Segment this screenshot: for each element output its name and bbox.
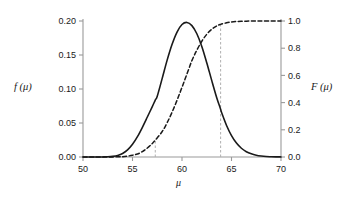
cdf-curve bbox=[83, 21, 281, 157]
x-axis-tick-label: 70 bbox=[276, 164, 286, 174]
chart-plot-area: 50556065700.000.050.100.150.200.00.20.40… bbox=[0, 0, 359, 200]
x-axis-tick-label: 55 bbox=[127, 164, 137, 174]
x-axis-tick-label: 60 bbox=[177, 164, 187, 174]
y-axis-label-right: F (μ) bbox=[311, 81, 332, 92]
y-axis-tick-label-left: 0.10 bbox=[58, 84, 76, 94]
x-axis-tick-label: 65 bbox=[226, 164, 236, 174]
y-axis-tick-label-right: 1.0 bbox=[288, 16, 301, 26]
y-axis-tick-label-left: 0.00 bbox=[58, 152, 76, 162]
y-axis-tick-label-right: 0.4 bbox=[288, 98, 301, 108]
y-axis-tick-label-right: 0.0 bbox=[288, 152, 301, 162]
x-axis-tick-label: 50 bbox=[78, 164, 88, 174]
y-axis-tick-label-right: 0.2 bbox=[288, 125, 301, 135]
y-axis-tick-label-left: 0.15 bbox=[58, 50, 76, 60]
y-axis-tick-label-right: 0.8 bbox=[288, 43, 301, 53]
y-axis-tick-label-right: 0.6 bbox=[288, 71, 301, 81]
chart-figure: 50556065700.000.050.100.150.200.00.20.40… bbox=[0, 0, 359, 200]
x-axis-label: μ bbox=[176, 177, 181, 188]
pdf-curve bbox=[83, 22, 281, 157]
y-axis-tick-label-left: 0.20 bbox=[58, 16, 76, 26]
y-axis-label-left: f (μ) bbox=[14, 81, 32, 92]
y-axis-tick-label-left: 0.05 bbox=[58, 118, 76, 128]
